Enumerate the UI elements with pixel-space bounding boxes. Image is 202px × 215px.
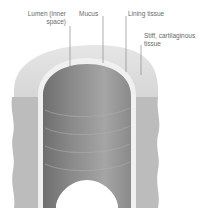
label-cartilage: Stiff, cartilaginous tissue bbox=[144, 32, 195, 48]
lumen bbox=[43, 64, 131, 209]
label-lumen: Lumen (inner space) bbox=[20, 10, 66, 26]
label-lining-tissue: Lining tissue bbox=[128, 10, 164, 18]
label-mucus: Mucus bbox=[79, 10, 98, 18]
